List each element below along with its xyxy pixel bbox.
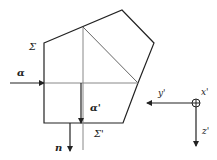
label-n: n: [55, 142, 62, 153]
x-prime-into-page-icon: [192, 99, 200, 107]
label-sigma: Σ: [28, 41, 37, 52]
label-alpha-prime: α': [90, 102, 101, 113]
label-y-prime: y': [157, 88, 166, 98]
label-x-prime: x': [201, 87, 209, 97]
diagonal-guide-line: [83, 27, 138, 83]
label-sigma-prime: Σ': [93, 128, 104, 139]
label-alpha: α: [17, 67, 25, 78]
prism-diagram: Σ α α' Σ' n y' x' z': [0, 0, 217, 160]
label-z-prime: z': [201, 126, 209, 136]
